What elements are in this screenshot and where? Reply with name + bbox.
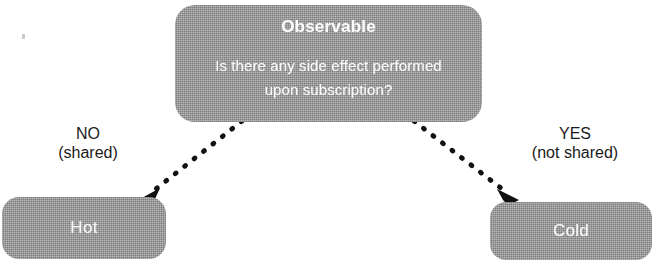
edge-label-no-answer: NO (18, 124, 158, 143)
node-observable-title: Observable (281, 18, 376, 37)
node-hot[interactable]: Hot (2, 197, 166, 259)
node-hot-label: Hot (70, 218, 97, 238)
node-cold-label: Cold (553, 221, 589, 241)
edge-no-dotted-line (152, 121, 242, 192)
node-observable-question-line-1: Is there any side effect performed (215, 54, 442, 78)
node-observable[interactable]: Observable Is there any side effect perf… (175, 5, 482, 122)
node-cold[interactable]: Cold (490, 202, 652, 260)
edge-label-yes-qualifier: (not shared) (500, 143, 650, 162)
edge-label-no-qualifier: (shared) (18, 143, 158, 162)
edge-label-no: NO (shared) (18, 124, 158, 162)
edge-label-yes-answer: YES (500, 124, 650, 143)
edge-yes-dotted-line (414, 121, 506, 192)
scan-artifact-speck (22, 34, 25, 39)
diagram-canvas: Observable Is there any side effect perf… (0, 0, 659, 272)
node-observable-question: Is there any side effect performed upon … (215, 54, 442, 102)
edge-label-yes: YES (not shared) (500, 124, 650, 162)
node-observable-question-line-2: upon subscription? (215, 78, 442, 102)
